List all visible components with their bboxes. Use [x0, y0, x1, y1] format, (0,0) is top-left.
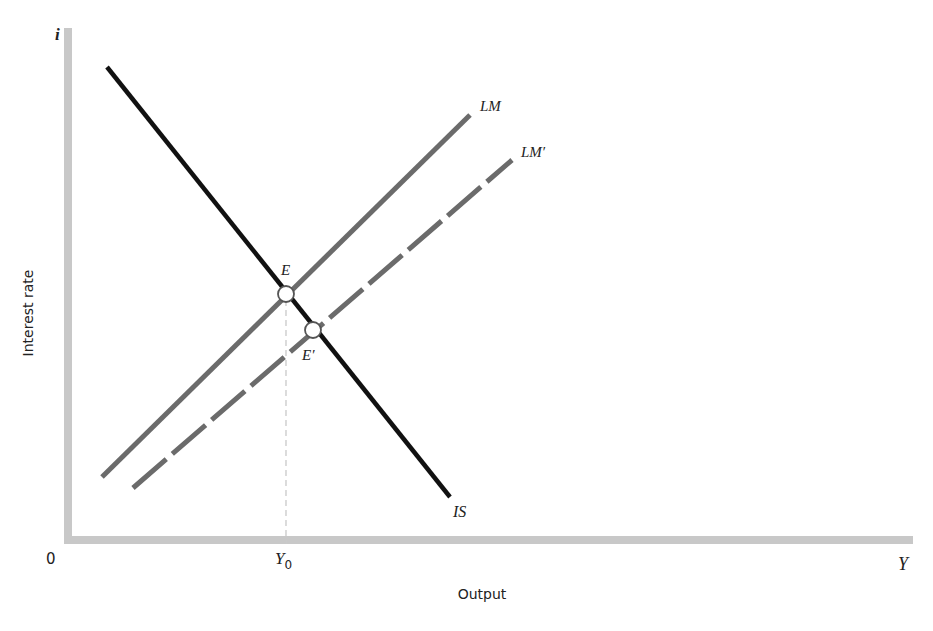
origin-label: 0 [46, 550, 56, 568]
y-axis-title: Interest rate [20, 270, 36, 357]
x-axis-symbol: Y [898, 554, 910, 574]
y0-label: Y0 [275, 549, 292, 572]
equilibrium-point-e [278, 286, 294, 302]
point-e-prime-label: E′ [301, 347, 315, 363]
lm-label: LM [479, 98, 502, 114]
lm-prime-curve [133, 160, 512, 488]
lm-prime-label: LM′ [520, 144, 546, 160]
point-e-label: E [280, 262, 290, 278]
equilibrium-point-e-prime [305, 322, 321, 338]
y-axis-symbol: i [55, 25, 60, 44]
x-axis-title: Output [458, 586, 507, 602]
is-curve [107, 67, 450, 497]
y0-label-subscript: 0 [284, 558, 292, 572]
islm-diagram: i Y 0 Interest rate Output Y0 LM LM′ IS … [0, 0, 933, 631]
is-label: IS [452, 503, 466, 520]
